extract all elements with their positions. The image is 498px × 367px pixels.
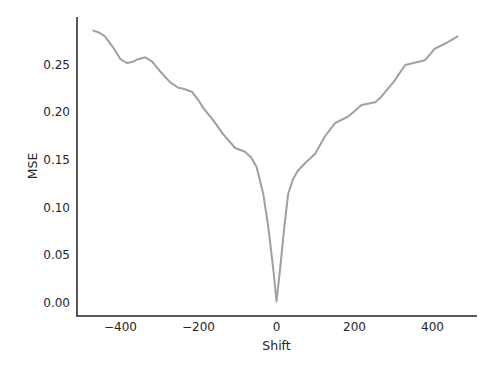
x-tick-label: 200: [343, 320, 366, 334]
plot-area: [93, 31, 457, 302]
x-tick-label: 400: [421, 320, 444, 334]
x-tick-label: −200: [182, 320, 215, 334]
x-tick-label: −400: [104, 320, 137, 334]
y-tick-label: 0.00: [43, 296, 70, 310]
x-tick-label: 0: [273, 320, 281, 334]
x-axis-label: Shift: [262, 338, 291, 353]
y-axis-label: MSE: [25, 153, 40, 180]
y-tick-label: 0.05: [43, 248, 70, 262]
x-tick-labels: −400−2000200400: [104, 320, 444, 334]
y-tick-label: 0.20: [43, 105, 70, 119]
y-tick-label: 0.25: [43, 58, 70, 72]
mse-line: [93, 31, 457, 302]
y-tick-label: 0.10: [43, 201, 70, 215]
mse-vs-shift-chart: 0.000.050.100.150.200.25 −400−2000200400…: [0, 0, 498, 367]
y-tick-labels: 0.000.050.100.150.200.25: [43, 58, 70, 311]
y-tick-label: 0.15: [43, 153, 70, 167]
